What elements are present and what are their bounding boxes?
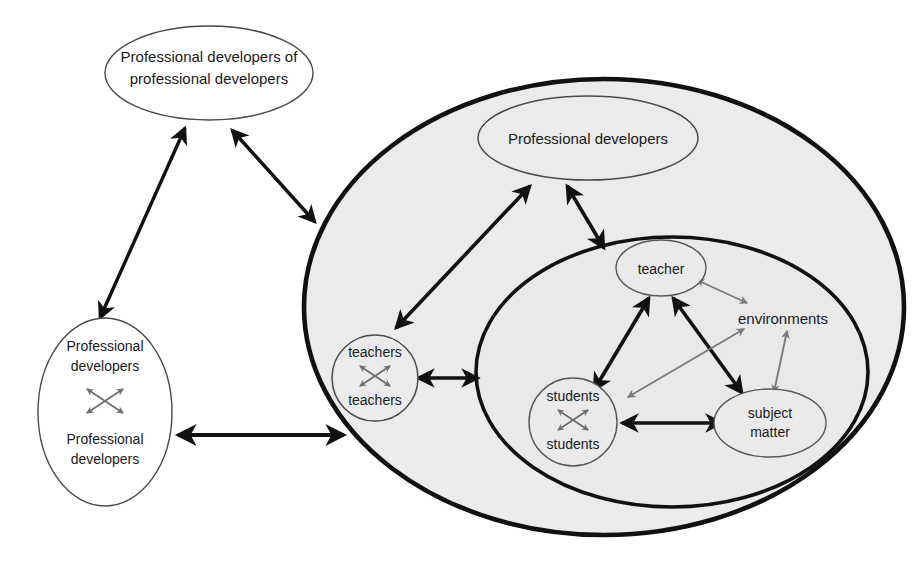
students-top-label: students [547, 388, 600, 404]
developer-dyad-top-line1: Professional [66, 338, 143, 354]
subject-matter-line1: subject [748, 405, 792, 421]
teacher-dyad-bottom-label: teachers [348, 392, 402, 408]
professional-developers-label: Professional developers [508, 130, 668, 147]
node-subject-matter[interactable]: subject matter [714, 389, 826, 457]
environments-label: environments [738, 310, 828, 327]
subject-matter-ellipse [714, 389, 826, 457]
diagram-canvas: Professional developers of professional … [0, 0, 917, 562]
developer-dyad-bottom-line2: developers [71, 451, 140, 467]
node-teacher-dyad[interactable]: teachers teachers [332, 335, 418, 421]
node-developer-dyad[interactable]: Professional developers Professional dev… [38, 318, 172, 506]
node-professional-developers[interactable]: Professional developers [478, 96, 698, 180]
meta-developers-line1: Professional developers of [121, 48, 299, 65]
teacher-dyad-top-label: teachers [348, 344, 402, 360]
node-meta-developers[interactable]: Professional developers of professional … [105, 26, 313, 120]
teacher-label: teacher [638, 261, 685, 277]
subject-matter-line2: matter [750, 424, 790, 440]
node-students[interactable]: students students [529, 378, 617, 466]
meta-developers-line2: professional developers [130, 70, 288, 87]
students-bottom-label: students [547, 436, 600, 452]
edge-meta-to-outer-system [232, 130, 315, 222]
node-teacher[interactable]: teacher [616, 240, 706, 296]
node-environments[interactable]: environments [738, 310, 828, 327]
developer-dyad-bottom-line1: Professional [66, 431, 143, 447]
edge-meta-to-developer-dyad [100, 128, 185, 318]
developer-dyad-top-line2: developers [71, 358, 140, 374]
nested-systems-diagram: Professional developers of professional … [0, 0, 917, 562]
